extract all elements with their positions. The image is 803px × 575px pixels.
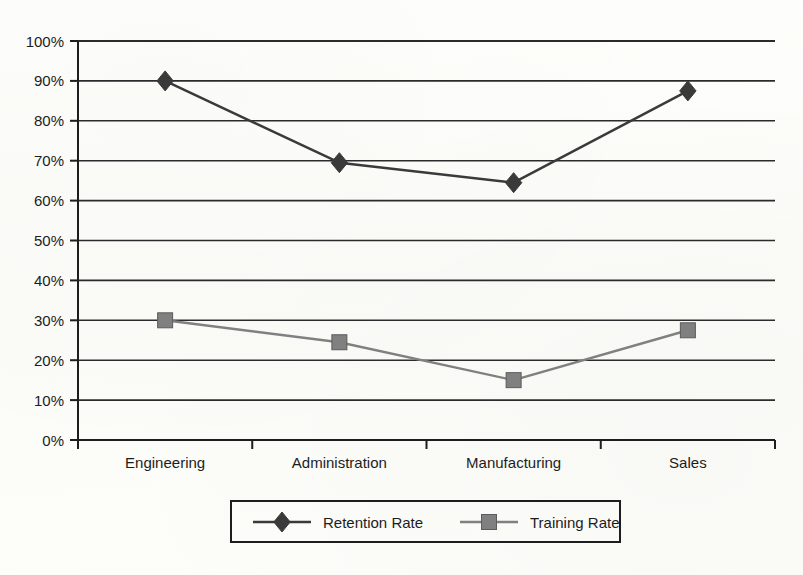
legend-item[interactable]: Retention Rate: [253, 512, 423, 532]
legend-label: Retention Rate: [323, 514, 423, 531]
y-tick-label: 100%: [26, 33, 64, 50]
x-category-label: Engineering: [125, 454, 205, 471]
square-marker: [482, 515, 497, 530]
x-category-label: Sales: [669, 454, 707, 471]
y-tick-label: 30%: [34, 312, 64, 329]
series-retention-rate: [157, 71, 696, 193]
series-line: [165, 320, 688, 380]
diamond-marker: [274, 512, 290, 532]
x-category-label: Manufacturing: [466, 454, 561, 471]
y-tick-label: 10%: [34, 392, 64, 409]
y-tick-label: 40%: [34, 272, 64, 289]
x-axis-category-labels: EngineeringAdministrationManufacturingSa…: [125, 454, 707, 471]
x-axis-ticks: [78, 440, 775, 449]
series-line: [165, 81, 688, 183]
y-tick-label: 0%: [42, 432, 64, 449]
y-tick-label: 60%: [34, 192, 64, 209]
legend-items: Retention RateTraining Rate: [253, 512, 620, 532]
diamond-marker: [331, 153, 347, 173]
diamond-marker: [680, 81, 696, 101]
chart-page: 100%90%80%70%60%50%40%30%20%10%0% Engine…: [0, 0, 803, 575]
diamond-marker: [157, 71, 173, 91]
series-training-rate: [158, 313, 696, 388]
line-chart: 100%90%80%70%60%50%40%30%20%10%0% Engine…: [0, 0, 803, 575]
y-tick-label: 80%: [34, 112, 64, 129]
data-series-group: [157, 71, 696, 388]
y-tick-label: 20%: [34, 352, 64, 369]
y-tick-label: 90%: [34, 72, 64, 89]
y-axis-ticks: 100%90%80%70%60%50%40%30%20%10%0%: [26, 33, 78, 449]
square-marker: [158, 313, 173, 328]
diamond-marker: [505, 173, 521, 193]
square-marker: [506, 373, 521, 388]
x-category-label: Administration: [292, 454, 387, 471]
legend-item[interactable]: Training Rate: [460, 514, 620, 531]
square-marker: [332, 335, 347, 350]
chart-legend: Retention RateTraining Rate: [231, 501, 620, 542]
legend-label: Training Rate: [530, 514, 620, 531]
y-tick-label: 50%: [34, 232, 64, 249]
square-marker: [680, 323, 695, 338]
y-tick-label: 70%: [34, 152, 64, 169]
